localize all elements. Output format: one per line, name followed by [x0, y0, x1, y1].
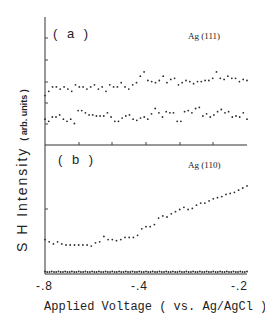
x-tick-label-0: -.8 — [36, 279, 53, 293]
y-axis-label-units: ( arb. units ) — [19, 89, 29, 141]
crystal-label-a: Ag (111) — [188, 31, 220, 41]
x-tick-label-1: -.4 — [131, 279, 148, 293]
y-axis-label-main: S H Intensity — [14, 147, 30, 252]
x-axis-label: Applied Voltage ( vs. Ag/AgCl ) — [44, 300, 265, 314]
x-tick-label-2: -.2 — [231, 279, 248, 293]
panel-label-b: ( b ) — [58, 152, 96, 167]
crystal-label-b: Ag (110) — [188, 160, 220, 170]
data-points — [44, 71, 248, 273]
y-axis-label: S H Intensity ( arb. units ) — [14, 89, 30, 252]
panel-label-a: ( a ) — [53, 26, 91, 41]
